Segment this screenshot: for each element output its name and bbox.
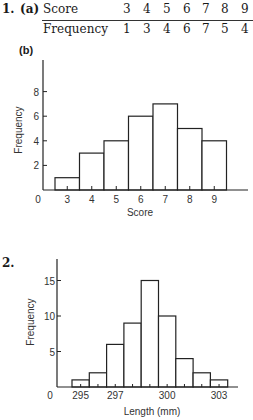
x-tick-label: 297 xyxy=(107,390,124,401)
y-tick-label: 5 xyxy=(49,347,55,358)
histogram-bar xyxy=(159,316,176,387)
x-tick-label: 295 xyxy=(72,390,89,401)
histogram-bar xyxy=(176,359,193,387)
x-tick-label: 300 xyxy=(159,390,176,401)
y-tick-label: 15 xyxy=(44,276,56,287)
chart-2-bars xyxy=(72,281,228,388)
y-tick-label: 10 xyxy=(44,311,56,322)
x-axis-label: Length (mm) xyxy=(124,406,181,417)
histogram-bar xyxy=(141,281,158,388)
histogram-bar xyxy=(107,344,124,387)
x-tick-label: 303 xyxy=(211,390,228,401)
chart-2-y-ticks: 51015 xyxy=(44,276,61,358)
y-axis-label: Frequency xyxy=(25,298,36,345)
histogram-length-frequency: 51015 295297300303 0 Length (mm) Frequen… xyxy=(0,0,253,420)
histogram-bar xyxy=(124,323,141,387)
origin-label: 0 xyxy=(47,390,53,401)
